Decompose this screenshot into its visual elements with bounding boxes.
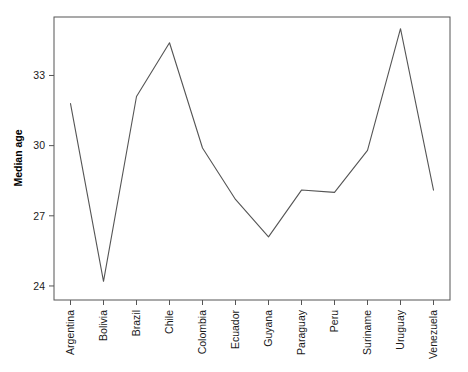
chart-page: 24273033 Median age ArgentinaBoliviaBraz… [0,0,468,372]
x-axis-tick-label: Argentina [64,310,76,355]
x-axis-tick-label: Uruguay [394,309,406,349]
y-axis-title: Median age [12,129,24,186]
x-axis-tick-label: Paraguay [295,309,307,355]
line-chart: 24273033 Median age ArgentinaBoliviaBraz… [0,0,468,372]
x-axis-ticks [71,300,434,305]
plot-frame [54,17,450,300]
x-axis-tick-label: Chile [163,310,175,334]
x-axis-tick-label: Guyana [262,310,274,347]
x-axis-tick-label: Bolivia [97,310,109,341]
x-axis-tick-label: Ecuador [229,309,241,349]
x-axis-tick-labels: ArgentinaBoliviaBrazilChileColombiaEcuad… [64,309,439,359]
y-axis-tick-label: 33 [33,69,45,81]
x-axis-tick-label: Brazil [130,310,142,336]
y-axis-tick-label: 27 [33,210,45,222]
x-axis-tick-label: Peru [328,310,340,332]
data-series-line [71,29,434,282]
y-axis-ticks [49,75,54,285]
x-axis-tick-label: Colombia [196,310,208,355]
x-axis-tick-label: Suriname [361,310,373,355]
y-axis-tick-labels: 24273033 [33,69,45,291]
x-axis-tick-label: Venezuela [427,310,439,359]
y-axis-tick-label: 24 [33,280,45,292]
y-axis-tick-label: 30 [33,139,45,151]
